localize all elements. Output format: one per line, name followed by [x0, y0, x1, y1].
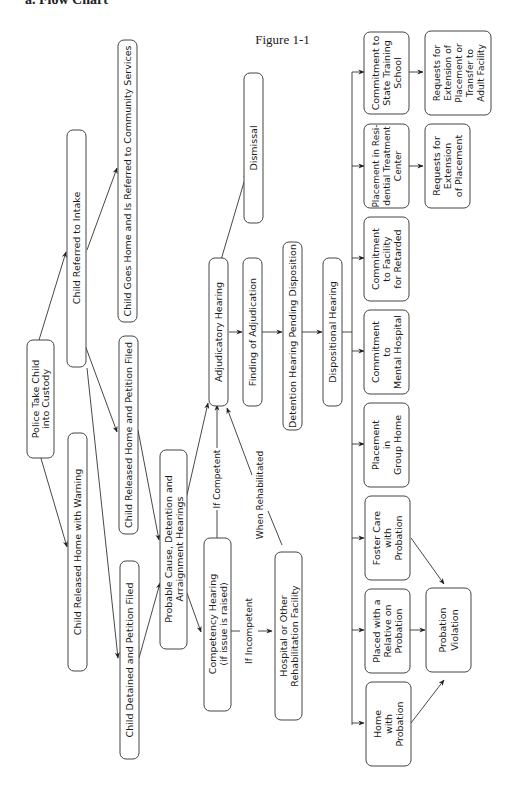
node-label: Placement or: [454, 43, 464, 103]
node-dismissal: Dismissal: [244, 73, 263, 223]
node-label: Placed with a: [371, 599, 382, 662]
node-label: Commitment to: [370, 35, 381, 110]
node-label: Adult Facility: [476, 44, 486, 102]
node-label: Violation: [449, 609, 460, 650]
node-detained-petition: Child Detained and Petition Filed: [120, 561, 139, 759]
node-extension-transfer-adult: Requests for Extension of Placement or T…: [425, 31, 491, 115]
node-label: Child Referred to Intake: [71, 192, 82, 305]
node-label: dential Treatment: [382, 126, 392, 206]
node-label: Child Goes Home and Is Referred to Commu…: [122, 46, 133, 317]
node-label: Mental Hospital: [392, 315, 403, 389]
node-competency-hearing: Competency Hearing (if issue is raised): [204, 538, 231, 711]
node-label: Requests for: [431, 136, 442, 196]
node-label: Child Detained and Petition Filed: [124, 583, 135, 738]
edge-label-if-incompetent: If Incompetent: [244, 598, 254, 664]
node-label: Dismissal: [248, 125, 259, 170]
node-adjudicatory-hearing: Adjudicatory Hearing: [209, 258, 228, 406]
node-label: Probation: [394, 701, 405, 746]
node-label: Probation: [437, 607, 448, 652]
node-label: Group Home: [392, 415, 403, 475]
node-probable-cause: Probable Cause, Detention and Arraignmen…: [160, 450, 187, 649]
node-label: Child Released Home and Petition Filed: [123, 342, 134, 528]
node-relative-probation: Placed with a Relative on Probation: [365, 589, 410, 673]
node-label: for Retarded: [392, 229, 403, 288]
node-label: Rehabilitation Facility: [289, 585, 300, 687]
node-label: State Training: [381, 40, 392, 106]
node-dispositional-hearing: Dispositional Hearing: [323, 258, 342, 406]
node-label: to: [381, 347, 392, 357]
node-label: Extension of: [443, 44, 453, 101]
node-referred-intake: Child Referred to Intake: [67, 130, 86, 367]
edge-label-when-rehabilitated: When Rehabilitated: [255, 451, 265, 539]
node-label: Commitment: [370, 228, 381, 290]
node-detention-pending-disposition: Detention Hearing Pending Disposition: [283, 242, 302, 430]
node-label: with: [383, 714, 394, 734]
node-label: Extension: [442, 143, 453, 190]
node-label: School: [392, 57, 403, 89]
node-probation-violation: Probation Violation: [426, 588, 471, 672]
node-label: Adjudicatory Hearing: [213, 282, 224, 382]
node-residential-treatment: Placement in Resi- dential Treatment Cen…: [364, 124, 409, 208]
node-label: Dispositional Hearing: [327, 281, 338, 382]
node-label: Transfer to: [465, 48, 475, 98]
juvenile-justice-flow-chart: If Competent If Incompetent When Rehabil…: [0, 0, 515, 790]
node-label: Center: [393, 151, 403, 182]
node-goes-home-community: Child Goes Home and Is Referred to Commu…: [118, 40, 137, 322]
node-group-home: Placement in Group Home: [364, 403, 409, 487]
node-label: in: [381, 441, 392, 450]
node-label: of Placement: [453, 135, 464, 198]
node-home-probation: Home with Probation: [366, 682, 411, 766]
node-foster-care-probation: Foster Care with Probation: [365, 496, 410, 580]
node-label: Probation: [393, 608, 404, 653]
node-mental-hospital: Commitment to Mental Hospital: [364, 310, 409, 394]
node-extension-placement: Requests for Extension of Placement: [425, 124, 470, 208]
node-hospital-rehab: Hospital or Other Rehabilitation Facilit…: [275, 552, 302, 720]
node-label: Probation: [393, 515, 404, 560]
node-label: into Custody: [40, 369, 51, 429]
node-label: to Facility: [381, 236, 392, 282]
node-label: (if issue is raised): [218, 582, 229, 666]
node-label: Arraignment Hearings: [174, 497, 185, 602]
node-label: Child Released Home with Warning: [72, 469, 83, 635]
node-released-petition: Child Released Home and Petition Filed: [119, 336, 138, 534]
node-finding-adjudication: Finding of Adjudication: [243, 258, 262, 406]
node-facility-retarded: Commitment to Facility for Retarded: [364, 217, 409, 301]
node-label: Relative on: [382, 604, 393, 657]
node-label: Hospital or Other: [278, 595, 289, 677]
node-label: Home: [372, 710, 383, 738]
node-police-custody: Police Take Child into Custody: [27, 340, 54, 458]
node-label: Probable Cause, Detention and: [163, 475, 174, 623]
node-label: Requests for: [432, 44, 442, 101]
node-label: Competency Hearing: [207, 574, 218, 674]
node-label: Placement: [370, 420, 381, 470]
node-label: Commitment: [370, 321, 381, 383]
node-label: Placement in Resi-: [371, 124, 381, 207]
node-label: Foster Care: [371, 511, 382, 566]
node-state-training-school: Commitment to State Training School: [364, 32, 409, 114]
node-label: Finding of Adjudication: [247, 278, 258, 386]
node-label: with: [382, 528, 393, 548]
node-released-warning: Child Released Home with Warning: [68, 433, 87, 671]
node-label: Detention Hearing Pending Disposition: [287, 244, 298, 428]
edge-label-if-competent: If Competent: [212, 449, 222, 508]
